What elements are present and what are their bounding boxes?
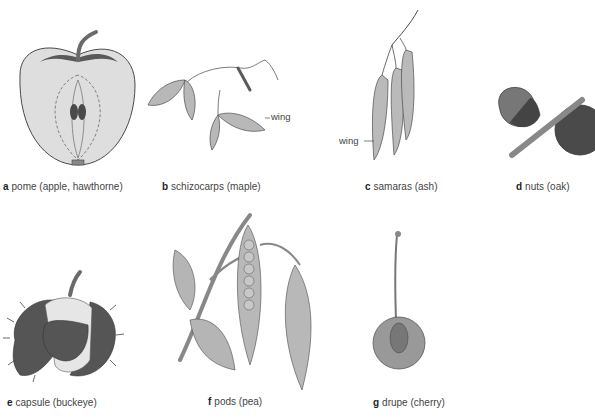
caption-b: bschizocarps (maple) [162,181,261,192]
caption-a: apome (apple, hawthorne) [3,181,123,192]
caption-text: nuts (oak) [525,181,569,192]
caption-text: schizocarps (maple) [171,181,260,192]
caption-letter: a [3,181,9,192]
panel-capsule-buckeye: ecapsule (buckeye) [0,210,130,419]
panel-pods-pea: fpods (pea) [150,200,350,419]
panel-samaras-ash: wing csamaras (ash) [330,0,460,200]
caption-text: pods (pea) [214,396,262,407]
caption-letter: g [373,397,379,408]
cherry-illustration [360,210,480,390]
maple-illustration [140,0,310,170]
caption-text: pome (apple, hawthorne) [12,181,123,192]
caption-letter: b [162,181,168,192]
panel-pome-apple: apome (apple, hawthorne) [0,0,140,200]
caption-text: drupe (cherry) [382,397,445,408]
caption-letter: c [365,181,371,192]
caption-letter: f [208,396,211,407]
caption-text: capsule (buckeye) [16,397,97,408]
caption-letter: d [516,181,522,192]
oak-illustration [480,0,595,170]
caption-letter: e [7,397,13,408]
caption-e: ecapsule (buckeye) [7,397,97,408]
wing-callout-c: wing [339,135,359,146]
caption-c: csamaras (ash) [365,181,437,192]
caption-d: dnuts (oak) [516,181,570,192]
panel-drupe-cherry: gdrupe (cherry) [360,210,480,419]
panel-nuts-oak: dnuts (oak) [480,0,595,200]
caption-f: fpods (pea) [208,396,262,407]
apple-illustration [0,0,140,170]
buckeye-illustration [0,210,130,390]
caption-g: gdrupe (cherry) [373,397,445,408]
wing-callout-b: wing [271,111,291,122]
pea-illustration [150,200,350,395]
caption-text: samaras (ash) [374,181,438,192]
panel-schizocarps-maple: wing bschizocarps (maple) [140,0,310,200]
